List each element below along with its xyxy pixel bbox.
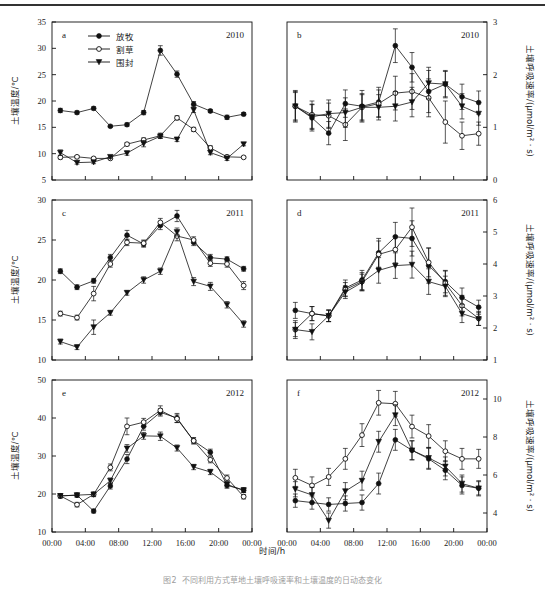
x-tick-label-f: 08:00 — [344, 538, 363, 548]
y-axis-title-c: 土壤温度/℃ — [10, 255, 20, 304]
panel-year-b: 2010 — [461, 30, 480, 40]
legend-label-0: 放牧 — [116, 32, 134, 42]
series-e-1 — [58, 406, 246, 507]
panel-year-e: 2012 — [226, 388, 244, 398]
marker-filled-triangle-down — [241, 322, 247, 327]
marker-filled-circle — [208, 450, 213, 455]
marker-filled-triangle-down — [309, 329, 315, 334]
marker-filled-triangle-down — [326, 518, 332, 523]
legend-marker-filled-circle — [97, 34, 102, 39]
marker-filled-circle — [91, 509, 96, 514]
marker-filled-circle — [58, 269, 63, 274]
marker-open-circle — [426, 434, 431, 439]
marker-filled-triangle-down — [376, 439, 382, 444]
series-f-1 — [293, 390, 481, 494]
multi-panel-chart: 5101520253035a2010土壤温度/℃0123b2010土壤呼吸速率/… — [0, 0, 545, 572]
x-tick-label-e: 20:00 — [209, 538, 228, 548]
series-line — [295, 227, 478, 329]
x-tick-label-e: 12:00 — [142, 538, 161, 548]
panel-letter-c: c — [62, 208, 66, 218]
marker-filled-circle — [125, 457, 130, 462]
marker-filled-triangle-down — [393, 413, 399, 418]
series-f-2 — [293, 405, 482, 529]
marker-open-circle — [376, 400, 381, 405]
marker-open-circle — [158, 408, 163, 413]
marker-open-circle — [376, 252, 381, 257]
marker-open-circle — [460, 456, 465, 461]
marker-filled-circle — [326, 131, 331, 136]
y-tick-label-f: 4 — [493, 508, 498, 518]
y-tick-label-a: 10 — [38, 149, 47, 159]
y-tick-label-b: 0 — [493, 175, 497, 185]
panel-e: 102030405000:0004:0008:0012:0016:0020:00… — [10, 375, 262, 548]
y-tick-label-b: 2 — [493, 70, 497, 80]
marker-open-circle — [175, 416, 180, 421]
series-line — [295, 237, 478, 316]
series-d-1 — [293, 208, 481, 339]
marker-filled-circle — [376, 481, 381, 486]
marker-open-circle — [125, 142, 130, 147]
y-tick-label-f: 8 — [493, 432, 497, 442]
marker-filled-triangle-down — [443, 284, 449, 289]
marker-filled-circle — [225, 115, 230, 120]
plot-frame-e — [52, 380, 252, 532]
marker-open-circle — [426, 260, 431, 265]
marker-filled-triangle-down — [58, 339, 64, 344]
series-a-2 — [58, 107, 247, 165]
y-tick-label-d: 6 — [493, 195, 497, 205]
y-tick-label-c: 25 — [38, 235, 47, 245]
marker-open-circle — [460, 133, 465, 138]
marker-open-circle — [191, 238, 196, 243]
y-axis-title-e: 土壤温度/℃ — [10, 431, 20, 480]
marker-filled-circle — [208, 109, 213, 114]
marker-filled-triangle-down — [309, 493, 315, 498]
marker-filled-circle — [175, 72, 180, 77]
series-line — [295, 46, 478, 133]
legend: 放牧割草围封 — [88, 32, 134, 68]
marker-filled-circle — [75, 110, 80, 115]
series-d-0 — [293, 221, 481, 322]
plot-frame-f — [287, 380, 487, 532]
panel-year-c: 2011 — [226, 208, 244, 218]
series-line — [60, 110, 243, 163]
marker-open-circle — [241, 494, 246, 499]
series-line — [295, 415, 478, 520]
marker-open-circle — [75, 315, 80, 320]
series-line — [60, 232, 243, 347]
marker-open-circle — [125, 240, 130, 245]
marker-open-circle — [158, 220, 163, 225]
marker-open-circle — [241, 155, 246, 160]
marker-open-circle — [393, 247, 398, 252]
x-tick-label-f: 20:00 — [444, 538, 463, 548]
y-tick-label-d: 5 — [493, 227, 497, 237]
y-tick-label-a: 15 — [38, 122, 47, 132]
panel-year-a: 2010 — [226, 30, 245, 40]
marker-open-circle — [410, 225, 415, 230]
x-axis-title: 时间/h — [259, 546, 285, 556]
marker-open-circle — [225, 262, 230, 267]
marker-filled-triangle-down — [58, 150, 64, 155]
legend-label-1: 割草 — [116, 45, 134, 55]
marker-filled-circle — [75, 285, 80, 290]
y-tick-label-d: 3 — [493, 291, 497, 301]
plot-frame-d — [287, 200, 487, 360]
y-tick-label-e: 40 — [38, 413, 47, 423]
series-c-2 — [58, 228, 247, 350]
y-tick-label-e: 10 — [38, 527, 47, 537]
series-line — [295, 92, 478, 136]
panel-b: 0123b2010土壤呼吸速率/(μmol/m² · s) — [287, 17, 535, 185]
marker-open-circle — [443, 449, 448, 454]
marker-filled-circle — [293, 308, 298, 313]
y-tick-label-e: 30 — [38, 451, 47, 461]
marker-filled-triangle-down — [376, 268, 382, 273]
x-tick-label-e: 04:00 — [76, 538, 95, 548]
marker-filled-circle — [141, 110, 146, 115]
series-a-1 — [58, 115, 246, 160]
figure-caption: 图2 不同利用方式草地土壤呼吸速率和土壤温度的日动态变化 — [0, 574, 545, 585]
series-d-2 — [293, 251, 482, 340]
marker-open-circle — [310, 311, 315, 316]
marker-filled-circle — [158, 48, 163, 53]
y-tick-label-b: 3 — [493, 17, 497, 27]
x-tick-label-e: 16:00 — [176, 538, 195, 548]
marker-open-circle — [108, 465, 113, 470]
